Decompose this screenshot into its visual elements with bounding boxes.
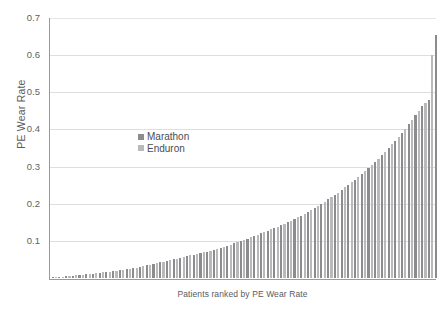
bar-fill-marathon [85,274,87,278]
bar-fill-marathon [186,256,188,278]
bar-fill-enduron [384,152,386,278]
bar-series-container [51,18,437,278]
bar-fill-enduron [196,254,198,278]
bar-fill-enduron [270,229,272,278]
bar-fill-enduron [142,266,144,278]
bar-fill-marathon [193,255,195,278]
bar-fill-marathon [414,115,416,278]
bar-fill-enduron [364,171,366,278]
bar-fill-enduron [149,265,151,278]
bar-fill-marathon [354,180,356,278]
bar-fill-marathon [213,250,215,278]
bar-fill-marathon [226,246,228,278]
bar-fill-enduron [283,224,285,278]
bar-fill-enduron [156,263,158,278]
bar-fill-enduron [304,214,306,278]
y-tick-label-0.1: 0.1 [14,236,40,246]
legend-label-marathon: Marathon [147,131,189,143]
bar-fill-marathon [347,185,349,278]
bar-fill-marathon [280,225,282,278]
bar-fill-marathon [381,155,383,278]
bar-fill-marathon [199,253,201,278]
bar-fill-enduron [431,55,433,278]
bar-fill-enduron [115,271,117,278]
bar-fill-enduron [257,235,259,278]
bar-fill-marathon [361,174,363,278]
bar-fill-enduron [82,275,84,278]
y-tick-label-0.2: 0.2 [14,199,40,209]
bar-fill-enduron [377,159,379,278]
bar-fill-enduron [310,210,312,278]
bar-fill-marathon [220,248,222,278]
bar-fill-marathon [293,219,295,278]
bar-fill-marathon [72,276,74,278]
bar-fill-enduron [62,277,64,278]
bar-fill-marathon [388,148,390,278]
bar-fill-marathon [126,269,128,278]
bar-fill-marathon [307,212,309,278]
bar-fill-enduron [250,237,252,278]
bar-fill-enduron [183,257,185,278]
bar-fill-enduron [129,269,131,278]
bar-fill-marathon [78,275,80,278]
bar-fill-enduron [411,120,413,278]
legend-swatch-enduron [138,145,144,151]
bar-fill-marathon [152,264,154,278]
bar-fill-marathon [112,271,114,278]
bar-fill-marathon [206,252,208,278]
bar-fill-marathon [435,35,437,278]
chart-legend: Marathon Enduron [138,131,189,154]
bar-fill-enduron [424,103,426,278]
bar-fill-enduron [297,217,299,278]
legend-label-enduron: Enduron [147,143,185,155]
bar-fill-marathon [173,259,175,278]
bar-fill-enduron [162,262,164,278]
bar-fill-enduron [277,227,279,278]
bar-fill-enduron [324,202,326,279]
bar-fill-marathon [58,277,60,278]
bar-fill-enduron [418,111,420,278]
bar-fill-enduron [203,252,205,278]
bar-fill-marathon [166,261,168,278]
bar-fill-enduron [216,249,218,278]
bar-fill-enduron [209,251,211,278]
pe-wear-rate-bar-chart: PE Wear Rate 0.70.60.50.40.30.20.1 Marat… [0,0,442,310]
bar-fill-enduron [330,197,332,278]
bar-fill-marathon [139,267,141,278]
bar-fill-marathon [119,270,121,278]
bar-fill-enduron [89,274,91,278]
bar-fill-enduron [95,273,97,278]
bar-fill-enduron [169,260,171,278]
bar-fill-enduron [371,165,373,278]
y-tick-label-0.4: 0.4 [14,124,40,134]
bar-fill-marathon [267,231,269,278]
bar-fill-marathon [132,268,134,278]
bar-fill-marathon [179,258,181,278]
bar-fill-enduron [68,276,70,278]
legend-item-enduron: Enduron [138,143,189,155]
bar-fill-enduron [189,255,191,278]
bar-fill-enduron [391,144,393,278]
bar-fill-enduron [102,272,104,278]
bar-fill-enduron [344,187,346,278]
bar-fill-marathon [105,272,107,278]
y-tick-label-0.6: 0.6 [14,50,40,60]
bar-fill-enduron [243,240,245,278]
bar-fill-marathon [374,162,376,278]
bar-fill-marathon [65,276,67,278]
y-tick-label-0.5: 0.5 [14,87,40,97]
bar-fill-enduron [136,268,138,278]
bar-fill-marathon [253,236,255,278]
bar-fill-enduron [357,177,359,278]
bar-fill-enduron [176,259,178,278]
bar-fill-enduron [317,206,319,278]
bar-fill-marathon [367,168,369,278]
bar-fill-enduron [122,270,124,278]
bar-fill-enduron [404,129,406,278]
bar-fill-enduron [223,247,225,278]
bar-fill-enduron [398,137,400,278]
bar-fill-enduron [75,275,77,278]
bar-fill-enduron [236,242,238,278]
bar-fill-marathon [146,265,148,278]
y-tick-label-0.3: 0.3 [14,162,40,172]
